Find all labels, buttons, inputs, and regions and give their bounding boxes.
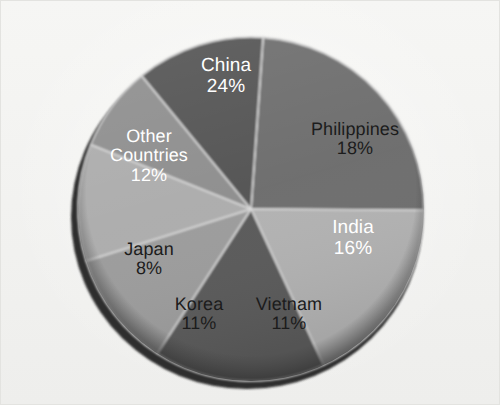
- slice-label-japan: Japan8%: [124, 240, 174, 279]
- slice-name-text: India: [332, 218, 374, 239]
- pie-chart: China24%Philippines18%India16%Vietnam11%…: [1, 1, 500, 405]
- slice-name-text: Other: [110, 127, 188, 146]
- slice-label-vietnam: Vietnam11%: [256, 295, 322, 334]
- slice-label-china: China24%: [201, 56, 251, 97]
- slice-value-text: 24%: [201, 77, 251, 98]
- slice-value-text: 11%: [175, 314, 224, 333]
- slice-name-text: Countries: [110, 146, 188, 165]
- slice-value-text: 8%: [124, 259, 174, 278]
- slice-name-text: Vietnam: [256, 295, 322, 314]
- slice-label-india: India16%: [332, 218, 374, 259]
- slice-value-text: 12%: [110, 166, 188, 185]
- slice-value-text: 11%: [256, 314, 322, 333]
- slice-name-text: Japan: [124, 240, 174, 259]
- slice-label-other-countries: OtherCountries12%: [110, 127, 188, 185]
- slice-value-text: 16%: [332, 239, 374, 260]
- slice-label-philippines: Philippines18%: [311, 120, 399, 159]
- chart-frame: China24%Philippines18%India16%Vietnam11%…: [0, 0, 500, 405]
- slice-name-text: Korea: [175, 295, 224, 314]
- slice-label-korea: Korea11%: [175, 295, 224, 334]
- slice-name-text: China: [201, 56, 251, 77]
- slice-name-text: Philippines: [311, 120, 399, 139]
- slice-value-text: 18%: [311, 139, 399, 158]
